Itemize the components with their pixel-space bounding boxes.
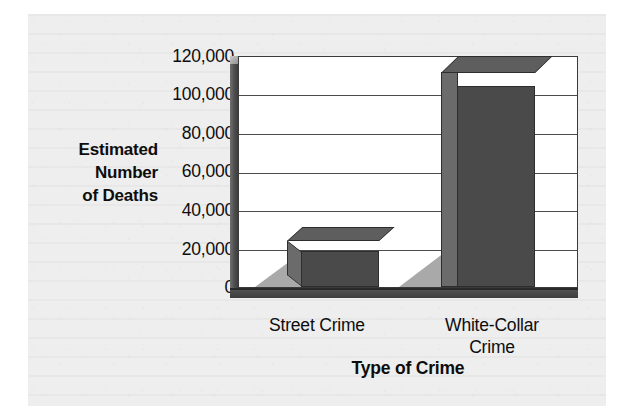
x-tick-label-street-crime: Street Crime [242,314,392,336]
y-axis-title-line-1: Estimated [30,138,158,161]
x-tick-label-street-crime-line-1: Street Crime [242,314,392,336]
bar-street-crime[interactable] [301,239,393,287]
y-tick-label-20000: 20,000 [146,240,234,258]
x-axis-title: Type of Crime [238,358,578,379]
y-axis-tick-labels: 120,000 100,000 80,000 60,000 40,000 20,… [146,14,234,406]
x-tick-label-white-collar-crime: White-Collar Crime [412,314,572,358]
bar-white-collar-crime-side-face [441,72,458,287]
y-tick-label-100000: 100,000 [146,85,234,103]
y-tick-label-80000: 80,000 [146,124,234,142]
bar-white-collar-crime-front-face [457,86,535,287]
plot-area [238,56,578,288]
figure-plate: Estimated Number of Deaths 120,000 100,0… [28,14,606,406]
y-axis-title-line-3: of Deaths [30,184,158,207]
bar-white-collar-crime-top-face [441,56,553,73]
bar-street-crime-front-face [301,251,379,287]
axis-floor-edge [230,288,578,290]
y-tick-label-0: 0 [146,278,234,296]
y-tick-label-120000: 120,000 [146,47,234,65]
y-tick-label-60000: 60,000 [146,162,234,180]
y-axis-title-line-2: Number [30,161,158,184]
bar-white-collar-crime[interactable] [457,71,549,287]
x-tick-label-white-collar-crime-line-1: White-Collar [412,314,572,336]
y-tick-label-40000: 40,000 [146,201,234,219]
y-axis-title: Estimated Number of Deaths [30,138,158,207]
x-tick-label-white-collar-crime-line-2: Crime [412,336,572,358]
bar-chart: Estimated Number of Deaths 120,000 100,0… [28,14,606,406]
bar-street-crime-top-face [287,227,395,241]
